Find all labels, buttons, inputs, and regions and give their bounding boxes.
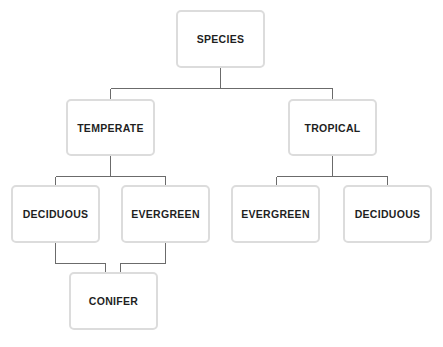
node-label: TROPICAL xyxy=(304,122,360,134)
node-temperate-evergreen: EVERGREEN xyxy=(121,185,210,243)
node-temperate: TEMPERATE xyxy=(66,99,155,156)
node-conifer: CONIFER xyxy=(69,272,158,330)
node-label: SPECIES xyxy=(197,33,245,45)
connector-deciduous-to-conifer xyxy=(56,243,106,272)
node-tropical-evergreen: EVERGREEN xyxy=(231,185,320,243)
node-label: DECIDUOUS xyxy=(355,208,421,220)
connector-evergreen-to-conifer xyxy=(121,243,166,272)
node-temperate-deciduous: DECIDUOUS xyxy=(11,185,100,243)
node-label: CONIFER xyxy=(89,295,138,307)
node-label: EVERGREEN xyxy=(241,208,310,220)
tree-diagram: SPECIES TEMPERATE TROPICAL DECIDUOUS EVE… xyxy=(0,0,443,347)
node-label: TEMPERATE xyxy=(77,122,144,134)
node-species: SPECIES xyxy=(176,10,265,68)
node-label: DECIDUOUS xyxy=(23,208,89,220)
node-tropical: TROPICAL xyxy=(288,99,377,156)
node-label: EVERGREEN xyxy=(131,208,200,220)
node-tropical-deciduous: DECIDUOUS xyxy=(343,185,432,243)
